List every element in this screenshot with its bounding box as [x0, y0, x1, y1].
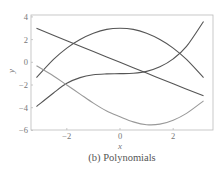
x-tick-label: 2	[171, 131, 175, 141]
y-tick-label: 0	[24, 57, 28, 67]
series-line-quadratic-concave	[36, 28, 203, 77]
y-tick-label: −6	[19, 125, 28, 135]
y-axis-label: y	[6, 69, 16, 74]
x-tick-label: 0	[118, 131, 122, 141]
axes-frame	[31, 15, 213, 130]
series-line-linear	[36, 28, 203, 96]
figure-caption: (b) Polynomials	[0, 152, 224, 163]
y-tick-label: 4	[24, 12, 29, 22]
x-tick-label: −2	[62, 131, 71, 141]
series-line-cubic	[36, 21, 203, 106]
polynomials-chart: 420−2−4−6 −202 x y	[0, 0, 224, 169]
series-line-quadratic-convex	[36, 66, 203, 125]
y-tick-label: 2	[24, 35, 28, 45]
y-tick-label: −2	[19, 80, 28, 90]
x-axis-label: x	[117, 141, 122, 151]
y-tick-label: −4	[19, 103, 29, 113]
plot-area	[36, 21, 203, 124]
